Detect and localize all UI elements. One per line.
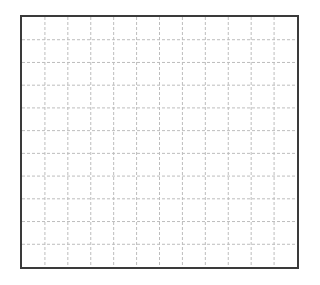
plot-area	[20, 15, 299, 269]
grid-lines	[22, 17, 297, 267]
